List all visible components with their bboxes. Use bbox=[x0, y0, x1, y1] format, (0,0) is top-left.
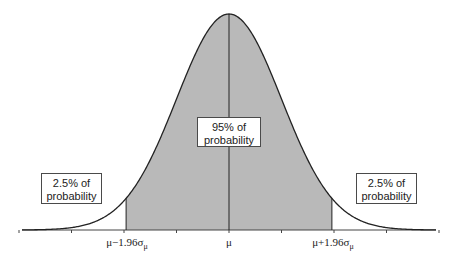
center-label-line1: 95% of bbox=[202, 121, 256, 134]
upper-critical-base: μ+1.96σ bbox=[312, 236, 349, 248]
lower-critical-base: μ−1.96σ bbox=[106, 236, 143, 248]
mean-label: μ bbox=[226, 236, 232, 248]
lower-critical-subscript: μ bbox=[143, 242, 147, 251]
lower-critical-label: μ−1.96σμ bbox=[106, 236, 148, 251]
mean-label-base: μ bbox=[226, 236, 232, 248]
left-tail-probability-label: 2.5% of probability bbox=[41, 173, 102, 204]
right-tail-label-line1: 2.5% of bbox=[361, 177, 412, 190]
left-tail-label-line1: 2.5% of bbox=[46, 177, 97, 190]
right-tail-probability-label: 2.5% of probability bbox=[356, 173, 417, 204]
upper-critical-label: μ+1.96σμ bbox=[312, 236, 354, 251]
upper-critical-subscript: μ bbox=[349, 242, 353, 251]
right-tail-label-line2: probability bbox=[361, 190, 412, 203]
left-tail-label-line2: probability bbox=[46, 190, 97, 203]
center-label-line2: probability bbox=[202, 134, 256, 147]
center-probability-label: 95% of probability bbox=[197, 117, 261, 147]
